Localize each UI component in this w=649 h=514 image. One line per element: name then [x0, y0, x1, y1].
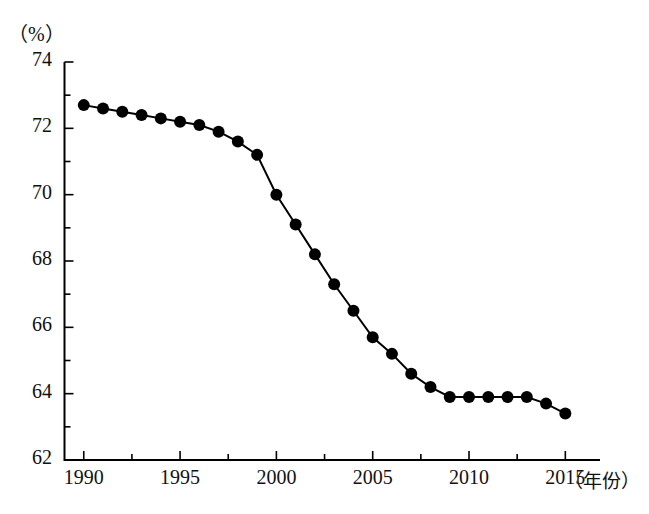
x-tick-label: 2015 [530, 466, 600, 489]
y-tick-label: 64 [8, 380, 52, 403]
x-tick-label: 1990 [49, 466, 119, 489]
line-chart: （%） （年份） 62646668707274 1990199520002005… [0, 0, 649, 514]
y-tick-label: 72 [8, 114, 52, 137]
data-point [424, 381, 436, 393]
x-axis-ticks [84, 451, 566, 460]
data-point [251, 149, 263, 161]
data-point [540, 398, 552, 410]
data-point [444, 391, 456, 403]
data-point [97, 102, 109, 114]
x-tick-label: 2010 [434, 466, 504, 489]
data-point [559, 408, 571, 420]
data-point [232, 136, 244, 148]
data-point [521, 391, 533, 403]
data-point [328, 278, 340, 290]
data-point [78, 99, 90, 111]
x-tick-label: 2000 [241, 466, 311, 489]
data-point [502, 391, 514, 403]
data-point [116, 106, 128, 118]
data-point [155, 112, 167, 124]
data-point [367, 331, 379, 343]
y-tick-label: 74 [8, 48, 52, 71]
y-axis-ticks [65, 62, 74, 460]
data-point-markers [78, 99, 572, 419]
y-tick-label: 68 [8, 247, 52, 270]
x-tick-label: 2005 [338, 466, 408, 489]
data-point [290, 219, 302, 231]
data-point [309, 248, 321, 260]
data-point [174, 116, 186, 128]
data-point [405, 368, 417, 380]
data-point [347, 305, 359, 317]
data-point [463, 391, 475, 403]
y-tick-label: 62 [8, 446, 52, 469]
data-line [84, 105, 566, 413]
data-point [193, 119, 205, 131]
axis-lines [65, 62, 601, 461]
data-point [213, 126, 225, 138]
plot-area [0, 0, 649, 514]
x-tick-label: 1995 [145, 466, 215, 489]
data-point [270, 189, 282, 201]
data-point [136, 109, 148, 121]
data-point [482, 391, 494, 403]
y-tick-label: 70 [8, 181, 52, 204]
y-tick-label: 66 [8, 313, 52, 336]
data-point [386, 348, 398, 360]
